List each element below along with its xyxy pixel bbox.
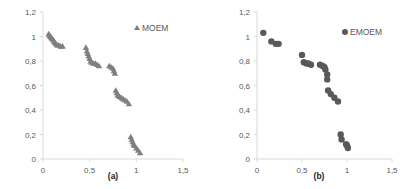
- x-tick-label: 1: [345, 166, 350, 175]
- y-tick-label: 0: [246, 155, 251, 164]
- y-tick-label: 0,6: [239, 82, 251, 91]
- x-tick-label: 1,5: [177, 166, 189, 175]
- data-point-circle: [345, 145, 351, 151]
- data-point-circle: [338, 136, 344, 142]
- y-tick-label: 0,6: [25, 82, 37, 91]
- x-tick-label: 0,5: [84, 166, 96, 175]
- data-point-circle: [308, 61, 314, 67]
- data-point-circle: [260, 30, 266, 36]
- x-tick-label: 0: [41, 166, 46, 175]
- x-tick-label: 1,5: [386, 166, 398, 175]
- x-tick-label: 0,5: [296, 166, 308, 175]
- data-point-circle: [335, 98, 341, 104]
- y-tick-label: 0,8: [239, 57, 251, 66]
- legend: MOEM: [134, 23, 168, 33]
- y-tick-label: 1: [32, 33, 37, 42]
- data-point-circle: [275, 41, 281, 47]
- legend-triangle-icon: [134, 25, 140, 30]
- panel-label: (a): [108, 171, 119, 181]
- y-tick-label: 0,4: [25, 106, 37, 115]
- panel-label: (b): [314, 171, 325, 181]
- y-tick-label: 0,2: [239, 131, 251, 140]
- chart-panel-a: 00,20,40,60,811,200,511,5MOEM(a): [0, 0, 207, 189]
- legend: EMOEM: [342, 27, 382, 37]
- legend-circle-icon: [342, 29, 348, 35]
- y-tick-label: 1,2: [239, 8, 251, 17]
- y-tick-label: 0: [32, 155, 37, 164]
- y-tick-label: 0,8: [25, 57, 37, 66]
- y-tick-label: 1,2: [25, 8, 37, 17]
- y-tick-label: 1: [246, 33, 251, 42]
- data-point-circle: [299, 52, 305, 58]
- x-tick-label: 1: [134, 166, 139, 175]
- y-tick-label: 0,4: [239, 106, 251, 115]
- y-tick-label: 0,2: [25, 131, 37, 140]
- x-tick-label: 0: [255, 166, 260, 175]
- legend-label: MOEM: [142, 23, 168, 33]
- scatter-chart-a: 00,20,40,60,811,200,511,5MOEM(a): [0, 0, 207, 189]
- data-point-triangle: [83, 44, 89, 50]
- scatter-chart-b: 00,20,40,60,811,200,511,5EMOEM(b): [207, 0, 414, 189]
- data-point-circle: [324, 76, 330, 82]
- legend-label: EMOEM: [350, 27, 382, 37]
- chart-panel-b: 00,20,40,60,811,200,511,5EMOEM(b): [207, 0, 414, 189]
